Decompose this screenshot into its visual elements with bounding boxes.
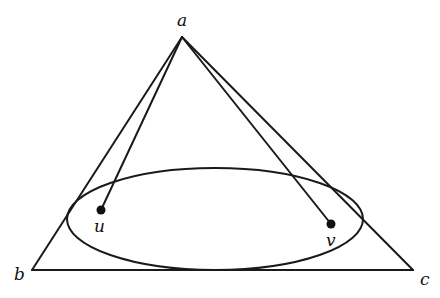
side-ac: [182, 37, 413, 270]
segment-av: [182, 37, 331, 224]
point-u: [97, 206, 106, 215]
label-u: u: [94, 216, 105, 236]
triangle-ellipse-diagram: a b c u v: [0, 0, 440, 298]
label-c: c: [420, 269, 430, 289]
label-v: v: [326, 230, 336, 250]
point-v: [327, 220, 336, 229]
side-ab: [32, 37, 182, 270]
label-b: b: [14, 264, 25, 284]
segment-au: [101, 37, 182, 210]
label-a: a: [177, 10, 187, 30]
inscribed-ellipse: [67, 168, 363, 270]
